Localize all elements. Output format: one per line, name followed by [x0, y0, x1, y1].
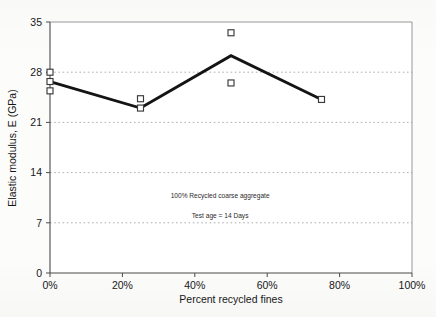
x-axis-title: Percent recycled fines — [179, 293, 282, 305]
y-tick-label-35: 35 — [30, 16, 42, 28]
annotation-line-2: Test age = 14 Days — [192, 212, 249, 220]
chart-svg: 0714212835 0%20%40%60%80%100% 100% Recyc… — [0, 0, 436, 317]
x-tick-label-60%: 60% — [257, 279, 278, 291]
x-tick-label-0%: 0% — [42, 279, 57, 291]
y-axis-title: Elastic modulus, E (GPa) — [6, 89, 18, 206]
data-point-marker — [47, 79, 53, 85]
annotation-line-1: 100% Recycled coarse aggregate — [171, 192, 270, 200]
y-axis-tick-labels-group: 0714212835 — [30, 16, 42, 279]
y-tick-label-7: 7 — [36, 217, 42, 229]
plot-background — [50, 22, 412, 273]
data-point-marker — [47, 69, 53, 75]
y-tick-label-28: 28 — [30, 66, 42, 78]
scanned-figure-page: 0714212835 0%20%40%60%80%100% 100% Recyc… — [0, 0, 436, 317]
data-point-marker — [228, 80, 234, 86]
x-tick-label-40%: 40% — [184, 279, 205, 291]
x-tick-label-100%: 100% — [399, 279, 426, 291]
y-axis-ticks-group — [46, 22, 50, 273]
y-tick-label-14: 14 — [30, 166, 42, 178]
data-point-marker — [319, 96, 325, 102]
y-tick-label-21: 21 — [30, 116, 42, 128]
x-tick-label-80%: 80% — [329, 279, 350, 291]
y-tick-label-0: 0 — [36, 267, 42, 279]
data-point-marker — [138, 105, 144, 111]
x-axis-ticks-group — [50, 273, 412, 277]
data-point-marker — [47, 88, 53, 94]
x-tick-label-20%: 20% — [112, 279, 133, 291]
data-point-marker — [228, 30, 234, 36]
chart-container: 0714212835 0%20%40%60%80%100% 100% Recyc… — [0, 0, 436, 317]
data-point-marker — [138, 96, 144, 102]
x-axis-tick-labels-group: 0%20%40%60%80%100% — [42, 279, 425, 291]
